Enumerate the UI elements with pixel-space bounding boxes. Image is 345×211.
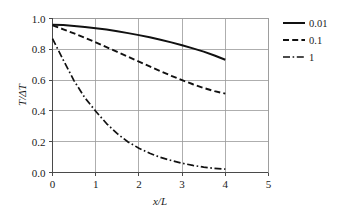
x-tick-label: 0 [50, 178, 56, 190]
y-tick-label: 0.2 [32, 136, 46, 148]
y-tick-label: 1.0 [32, 13, 46, 25]
legend-label-1: 1 [309, 52, 314, 63]
x-tick-label: 2 [136, 178, 142, 190]
x-tick-label: 5 [266, 178, 272, 190]
x-tick-label: 3 [179, 178, 185, 190]
legend-label-0-1: 0.1 [309, 35, 322, 46]
y-tick-labels-group: 0.00.20.40.60.81.0 [32, 13, 46, 179]
tickmarks-group [49, 19, 269, 177]
y-tick-label: 0.4 [32, 105, 46, 117]
gridlines-group [53, 19, 269, 173]
x-tick-label: 1 [93, 178, 99, 190]
y-tick-label: 0.6 [32, 74, 46, 86]
legend: 0.010.11 [283, 18, 327, 63]
x-axis-title: x/L [152, 195, 167, 207]
line-chart: 012345 0.00.20.40.60.81.0 0.010.11 x/L T… [0, 0, 345, 211]
x-tick-labels-group: 012345 [50, 178, 272, 190]
x-tick-label: 4 [223, 178, 229, 190]
y-tick-label: 0.0 [32, 167, 46, 179]
figure-container: 012345 0.00.20.40.60.81.0 0.010.11 x/L T… [0, 0, 345, 211]
legend-label-0-01: 0.01 [309, 18, 327, 29]
axis-lines-group [53, 19, 269, 173]
y-tick-label: 0.8 [32, 43, 46, 55]
y-axis-title: T/ΔT [16, 83, 28, 106]
